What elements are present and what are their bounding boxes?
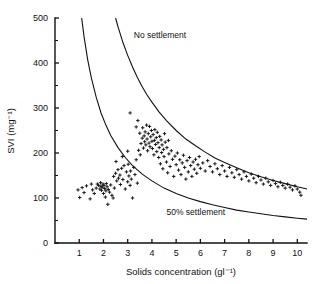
data-point-marker: [201, 161, 204, 164]
curve-annotations: No settlement50% settlement: [134, 30, 226, 216]
data-point-marker: [114, 172, 117, 175]
data-point-marker: [152, 153, 155, 156]
x-tick-label: 2: [101, 248, 106, 258]
data-point-marker: [119, 183, 122, 186]
data-point-marker: [162, 148, 165, 151]
data-point-marker: [191, 160, 194, 163]
data-point-marker: [82, 191, 85, 194]
data-point-marker: [264, 177, 267, 180]
data-point-marker: [211, 170, 214, 173]
data-point-marker: [165, 160, 168, 163]
data-point-marker: [204, 169, 207, 172]
y-tick-label: 400: [33, 58, 48, 68]
data-point-marker: [166, 171, 169, 174]
data-points: [76, 111, 302, 206]
data-point-marker: [102, 192, 105, 195]
data-point-marker: [147, 132, 150, 135]
data-point-marker: [88, 197, 91, 200]
data-point-marker: [116, 168, 119, 171]
data-point-marker: [245, 175, 248, 178]
data-point-marker: [109, 183, 112, 186]
data-point-marker: [148, 125, 151, 128]
data-point-marker: [274, 182, 277, 185]
data-point-marker: [139, 153, 142, 156]
data-point-marker: [145, 137, 148, 140]
data-point-marker: [146, 149, 149, 152]
data-point-marker: [208, 165, 211, 168]
data-point-marker: [151, 147, 154, 150]
data-point-marker: [115, 179, 118, 182]
data-point-marker: [188, 156, 191, 159]
data-point-marker: [161, 167, 164, 170]
tick-labels: 123456789100100200300400500: [33, 13, 302, 258]
data-point-marker: [138, 132, 141, 135]
chart-figure: 123456789100100200300400500 Solids conce…: [0, 0, 328, 284]
data-point-marker: [288, 186, 291, 189]
data-point-marker: [147, 141, 150, 144]
data-point-marker: [134, 158, 137, 161]
x-tick-label: 7: [222, 248, 227, 258]
data-point-marker: [148, 145, 151, 148]
data-point-marker: [165, 146, 168, 149]
data-point-marker: [276, 185, 279, 188]
boundary-curves: [82, 18, 307, 219]
no-settlement-curve: [116, 18, 307, 189]
data-point-marker: [291, 188, 294, 191]
no-settlement-label: No settlement: [134, 30, 187, 40]
data-point-marker: [213, 162, 216, 165]
data-point-marker: [90, 182, 93, 185]
data-point-marker: [194, 158, 197, 161]
data-point-marker: [114, 160, 117, 163]
data-point-marker: [283, 186, 286, 189]
data-point-marker: [279, 181, 282, 184]
data-point-marker: [220, 164, 223, 167]
data-point-marker: [117, 177, 120, 180]
data-point-marker: [153, 128, 156, 131]
data-point-marker: [154, 143, 157, 146]
data-point-marker: [122, 164, 125, 167]
data-point-marker: [293, 184, 296, 187]
data-point-marker: [247, 179, 250, 182]
data-point-marker: [269, 184, 272, 187]
data-point-marker: [218, 173, 221, 176]
data-point-marker: [267, 180, 270, 183]
x-tick-label: 4: [149, 248, 154, 258]
data-point-marker: [143, 140, 146, 143]
data-point-marker: [197, 155, 200, 158]
data-point-marker: [126, 180, 129, 183]
data-point-marker: [120, 167, 123, 170]
data-point-marker: [125, 170, 128, 173]
data-point-marker: [179, 173, 182, 176]
data-point-marker: [142, 134, 145, 137]
data-point-marker: [129, 169, 132, 172]
data-point-marker: [94, 186, 97, 189]
data-point-marker: [182, 154, 185, 157]
y-axis-title: SVI (mg⁻¹): [5, 108, 16, 154]
data-point-marker: [151, 133, 154, 136]
data-point-marker: [128, 111, 131, 114]
data-point-marker: [133, 173, 136, 176]
data-point-marker: [172, 175, 175, 178]
data-point-marker: [155, 150, 158, 153]
data-point-marker: [298, 190, 301, 193]
data-point-marker: [150, 129, 153, 132]
fifty-percent-settlement-label: 50% settlement: [166, 207, 225, 217]
data-point-marker: [143, 130, 146, 133]
data-point-marker: [233, 176, 236, 179]
data-point-marker: [157, 146, 160, 149]
data-point-marker: [173, 154, 176, 157]
y-tick-label: 500: [33, 13, 48, 23]
data-point-marker: [136, 119, 139, 122]
data-point-marker: [160, 143, 163, 146]
data-point-marker: [141, 126, 144, 129]
data-point-marker: [228, 166, 231, 169]
data-point-marker: [185, 159, 188, 162]
data-point-marker: [124, 187, 127, 190]
data-point-marker: [139, 142, 142, 145]
data-point-marker: [183, 166, 186, 169]
data-point-marker: [296, 187, 299, 190]
data-point-marker: [130, 177, 133, 180]
data-point-marker: [189, 164, 192, 167]
data-point-marker: [159, 162, 162, 165]
data-point-marker: [193, 168, 196, 171]
